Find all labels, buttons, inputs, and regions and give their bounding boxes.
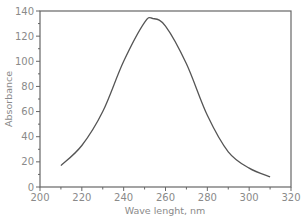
y-tick-label: 80 — [21, 81, 34, 92]
absorbance-chart: 020406080100120140 200220240260280300320… — [0, 0, 305, 220]
x-tick-label: 300 — [240, 192, 259, 203]
x-tick-label: 200 — [30, 192, 49, 203]
y-tick-label: 40 — [21, 131, 34, 142]
y-tick-label: 100 — [15, 56, 34, 67]
plot-frame — [40, 11, 291, 187]
y-axis: 020406080100120140 — [15, 6, 40, 193]
y-tick-label: 60 — [21, 106, 34, 117]
absorbance-curve — [61, 18, 270, 177]
y-tick-label: 0 — [28, 182, 34, 193]
x-tick-label: 220 — [72, 192, 91, 203]
x-tick-label: 260 — [156, 192, 175, 203]
y-tick-label: 140 — [15, 6, 34, 17]
x-tick-label: 320 — [281, 192, 300, 203]
x-tick-label: 240 — [114, 192, 133, 203]
x-axis: 200220240260280300320 — [30, 187, 300, 203]
y-tick-label: 20 — [21, 156, 34, 167]
x-tick-label: 280 — [198, 192, 217, 203]
y-axis-title: Absorbance — [3, 71, 14, 127]
y-tick-label: 120 — [15, 31, 34, 42]
x-axis-title: Wave lenght, nm — [125, 205, 206, 216]
plot-border — [40, 11, 291, 187]
